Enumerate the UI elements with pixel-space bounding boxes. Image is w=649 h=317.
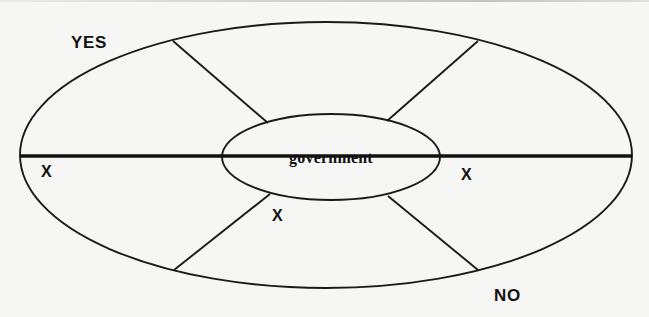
- label-x-left: X: [41, 163, 52, 180]
- spoke-upper-right: [387, 41, 478, 121]
- ellipse-diagram-svg: government YES NO X X X: [0, 0, 649, 317]
- page-top-edge: [0, 0, 649, 2]
- spoke-lower-right: [388, 196, 478, 270]
- diagram-canvas: government YES NO X X X: [0, 0, 649, 317]
- label-x-bottom: X: [272, 207, 283, 224]
- spoke-lower-left: [174, 194, 270, 270]
- label-yes: YES: [71, 33, 107, 52]
- label-x-right: X: [461, 166, 472, 183]
- label-no: NO: [494, 286, 521, 305]
- center-node-label: government: [289, 149, 373, 167]
- spoke-upper-left: [173, 41, 268, 123]
